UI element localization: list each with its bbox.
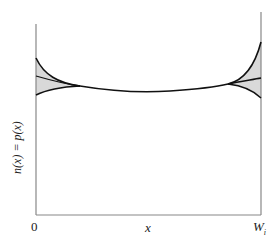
y-axis-label: n(x) = p(x)	[10, 103, 25, 193]
x-axis-label: x	[145, 220, 151, 236]
plot-canvas	[0, 0, 278, 245]
right-shaded-band	[228, 42, 261, 98]
x-tick-wi: Wi	[253, 219, 266, 237]
left-shaded-band	[36, 58, 80, 95]
x-tick-zero: 0	[31, 219, 38, 235]
x-tick-wi-main: W	[253, 219, 264, 234]
x-tick-wi-subscript: i	[264, 228, 266, 237]
